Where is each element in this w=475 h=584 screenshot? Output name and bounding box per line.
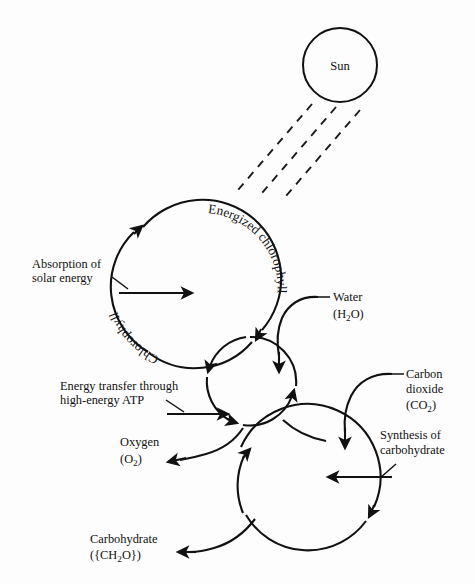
co2-label: Carbon dioxide (CO2)	[406, 367, 444, 414]
water-label-name: Water	[333, 290, 363, 304]
oxygen-label-formula: (O2)	[120, 452, 142, 468]
water-input-curve	[278, 297, 318, 356]
chlorophyll-arc-bottom	[149, 342, 252, 368]
carbohydrate-label-formula: ({CH2O})	[90, 548, 141, 564]
absorption-label-line2: solar energy	[32, 271, 93, 285]
carb-arc-bottom	[246, 515, 366, 550]
chlorophyll-label: Chlorophyll	[106, 310, 161, 368]
water-arc-topright	[250, 337, 296, 386]
intercycle-link-flow	[283, 420, 326, 441]
synthesis-leader	[380, 464, 396, 478]
oxygen-label: Oxygen (O2)	[120, 435, 159, 468]
water-arrow-left	[208, 364, 211, 372]
water-arrow-upperright	[291, 390, 294, 398]
oxygen-label-name: Oxygen	[120, 435, 159, 449]
carb-arrow-lowerright	[369, 505, 374, 517]
photosynthesis-diagram: Sun Energized chlorophyll Chlorophyll	[0, 0, 475, 584]
synthesis-label-line1: Synthesis of	[380, 428, 442, 442]
sun-group: Sun	[303, 28, 377, 102]
synthesis-label: Synthesis of carbohydrate	[380, 428, 445, 457]
energy-transfer-label: Energy transfer through high-energy ATP	[60, 379, 179, 407]
water-label: Water (H2O)	[333, 290, 364, 323]
absorption-pointer	[112, 277, 192, 293]
co2-input-curve	[345, 374, 392, 432]
energy-transfer-leader	[166, 400, 184, 412]
oxygen-output-flow	[168, 428, 243, 462]
synthesis-pointer	[328, 464, 396, 478]
water-label-formula: (H2O)	[333, 307, 364, 323]
sun-rays-group	[238, 104, 360, 196]
carbohydrate-label-name: Carbohydrate	[90, 532, 158, 546]
co2-label-formula: (CO2)	[406, 398, 436, 414]
oxygen-output-curve	[180, 428, 243, 460]
chlorophyll-cycle-group: Energized chlorophyll Chlorophyll	[106, 200, 290, 368]
synthesis-label-line2: carbohydrate	[380, 443, 445, 457]
absorption-label-line1: Absorption of	[32, 257, 102, 271]
intercycle-link-curve	[283, 420, 326, 441]
carbohydrate-output-curve	[190, 519, 255, 552]
water-arrow-bottom	[228, 419, 237, 423]
energy-transfer-label-line1: Energy transfer through	[60, 379, 179, 393]
energized-chlorophyll-label: Energized chlorophyll	[207, 201, 289, 294]
co2-label-line2: dioxide	[406, 382, 444, 396]
chlorophyll-arrow-upperleft	[134, 226, 142, 234]
carbohydrate-label: Carbohydrate ({CH2O})	[90, 532, 158, 564]
carb-arrow-upperleft	[243, 449, 250, 458]
carbohydrate-output-flow	[178, 519, 255, 552]
sun-label: Sun	[330, 59, 350, 73]
carb-arc-top	[241, 404, 380, 507]
energy-transfer-label-line2: high-energy ATP	[60, 393, 144, 407]
co2-label-line1: Carbon	[406, 367, 442, 381]
absorption-leader	[112, 277, 128, 289]
water-cycle-group	[207, 337, 296, 426]
absorption-label: Absorption of solar energy	[32, 257, 102, 285]
diagram-canvas: Sun Energized chlorophyll Chlorophyll	[0, 0, 475, 584]
chlorophyll-arc-topright	[143, 200, 281, 330]
water-input-flow	[278, 297, 318, 372]
carb-arc-left	[238, 456, 244, 513]
